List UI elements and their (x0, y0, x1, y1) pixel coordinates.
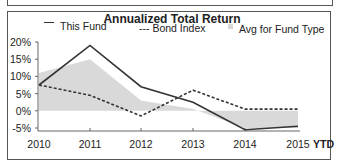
y-tick-label: 15% (10, 53, 31, 65)
avg-area (39, 59, 298, 128)
x-tick-label: 2013 (181, 138, 205, 150)
y-tick-label: -5% (12, 122, 31, 134)
x-tick-label: 2010 (27, 138, 51, 150)
chart-plot: 20%15%10%5%0%-5%201020112012201320142015… (0, 0, 344, 164)
x-tick-label: 2012 (129, 138, 153, 150)
y-tick-label: 0% (16, 105, 31, 117)
ytd-label: YTD (313, 138, 334, 150)
x-tick-label: 2014 (233, 138, 257, 150)
avg-area-series (39, 59, 298, 128)
x-tick-label: 2011 (79, 138, 102, 150)
y-tick-label: 20% (10, 36, 31, 48)
y-tick-label: 10% (10, 70, 31, 82)
y-tick-label: 5% (16, 88, 31, 100)
x-tick-label: 2015 (286, 138, 310, 150)
